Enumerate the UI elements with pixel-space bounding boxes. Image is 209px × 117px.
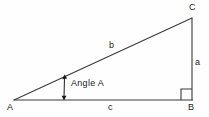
vertex-label-c: C [189,3,196,12]
side-label-b: b [109,41,114,50]
vertex-label-b: B [188,103,194,112]
right-angle-marker-icon [181,89,192,100]
angle-a-arrow-icon [62,75,68,101]
angle-a-label: Angle A [71,79,104,88]
side-label-a: a [195,58,200,67]
triangle-diagram: A B C a b c Angle A [0,0,209,117]
triangle-graphic [0,0,209,117]
side-label-c: c [108,103,113,112]
vertex-label-a: A [7,103,13,112]
